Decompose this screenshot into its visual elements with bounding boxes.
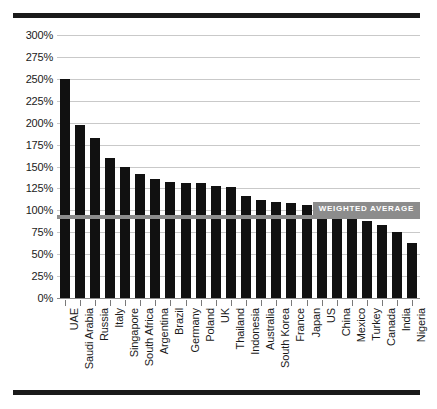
x-axis-tick bbox=[382, 300, 383, 306]
x-axis-tick bbox=[95, 300, 96, 306]
y-axis-tick-label: 250% bbox=[26, 73, 53, 85]
x-axis-tick bbox=[337, 300, 338, 306]
bar bbox=[75, 125, 85, 298]
x-axis-tick bbox=[110, 300, 111, 306]
bar bbox=[332, 217, 342, 298]
bar bbox=[377, 225, 387, 298]
x-axis-tick bbox=[186, 300, 187, 306]
x-axis-category-label: China bbox=[341, 308, 352, 336]
bar bbox=[211, 186, 221, 298]
bar bbox=[317, 206, 327, 298]
x-axis-tick bbox=[125, 300, 126, 306]
y-axis-tick-label: 200% bbox=[26, 117, 53, 129]
weighted-average-line bbox=[57, 215, 420, 219]
top-rule bbox=[13, 13, 420, 18]
bar bbox=[241, 196, 251, 298]
x-axis-tick bbox=[170, 300, 171, 306]
y-axis-tick-label: 175% bbox=[26, 139, 53, 151]
bar-series bbox=[57, 35, 420, 298]
bar bbox=[407, 243, 417, 298]
x-axis-tick bbox=[412, 300, 413, 306]
x-axis-tick bbox=[261, 300, 262, 306]
y-axis-tick-label: 275% bbox=[26, 51, 53, 63]
y-axis-tick-label: 150% bbox=[26, 161, 53, 173]
bar bbox=[150, 179, 160, 298]
bar bbox=[60, 79, 70, 298]
x-axis-tick bbox=[80, 300, 81, 306]
x-axis-category-label: US bbox=[326, 308, 337, 323]
x-axis-tick bbox=[65, 300, 66, 306]
y-axis-tick-label: 75% bbox=[32, 226, 53, 238]
x-axis-tick bbox=[140, 300, 141, 306]
bar bbox=[120, 167, 130, 298]
x-axis-tick bbox=[367, 300, 368, 306]
y-axis-tick-label: 25% bbox=[32, 270, 53, 282]
x-axis-tick bbox=[276, 300, 277, 306]
weighted-average-label: WEIGHTED AVERAGE bbox=[313, 202, 420, 215]
x-axis-category-label: Italy bbox=[114, 308, 125, 328]
x-axis-category-label: UK bbox=[220, 308, 231, 323]
x-axis-category-label: South Korea bbox=[280, 308, 291, 368]
x-axis-tick bbox=[231, 300, 232, 306]
x-axis-category-label: France bbox=[295, 308, 306, 342]
bar bbox=[135, 174, 145, 298]
y-axis-tick-label: 0% bbox=[38, 292, 54, 304]
x-axis-category-label: Poland bbox=[205, 308, 216, 342]
bar bbox=[347, 219, 357, 298]
x-axis-tick bbox=[291, 300, 292, 306]
x-axis-category-label: India bbox=[401, 308, 412, 331]
x-axis-category-label: Germany bbox=[190, 308, 201, 353]
bar bbox=[362, 221, 372, 298]
bar bbox=[105, 158, 115, 298]
x-axis-category-label: Saudi Arabia bbox=[84, 308, 95, 369]
x-axis-tick bbox=[201, 300, 202, 306]
bar bbox=[181, 183, 191, 298]
y-axis-tick-label: 100% bbox=[26, 204, 53, 216]
x-axis-tick bbox=[322, 300, 323, 306]
bar bbox=[196, 183, 206, 298]
x-axis-category-label: Singapore bbox=[129, 308, 140, 357]
x-axis-category-label: Japan bbox=[311, 308, 322, 337]
y-axis-tick-label: 125% bbox=[26, 182, 53, 194]
bottom-rule bbox=[13, 390, 420, 395]
x-axis-category-label: UAE bbox=[69, 308, 80, 330]
axis-baseline: 0% bbox=[57, 298, 420, 299]
bar bbox=[165, 182, 175, 298]
x-axis-category-label: Argentina bbox=[159, 308, 170, 354]
x-axis-category-label: Nigeria bbox=[416, 308, 427, 342]
x-axis-tick bbox=[246, 300, 247, 306]
bar bbox=[392, 232, 402, 298]
x-axis-category-label: Turkey bbox=[371, 308, 382, 341]
x-axis-category-label: Russia bbox=[99, 308, 110, 341]
x-axis-labels: UAESaudi ArabiaRussiaItalySingaporeSouth… bbox=[57, 308, 420, 388]
x-axis-category-label: South Africa bbox=[144, 308, 155, 366]
bar bbox=[226, 187, 236, 298]
x-axis-tick bbox=[397, 300, 398, 306]
x-axis-category-label: Canada bbox=[386, 308, 397, 346]
y-axis-tick-label: 300% bbox=[26, 29, 53, 41]
x-axis-tick bbox=[352, 300, 353, 306]
x-axis-tick bbox=[216, 300, 217, 306]
x-axis-category-label: Mexico bbox=[356, 308, 367, 342]
x-axis-tick bbox=[155, 300, 156, 306]
x-axis-category-label: Brazil bbox=[174, 308, 185, 335]
x-axis-category-label: Thailand bbox=[235, 308, 246, 349]
plot-area: 300%275%250%225%200%175%150%125%100%75%5… bbox=[57, 35, 420, 298]
x-axis-tick bbox=[307, 300, 308, 306]
x-axis-category-label: Australia bbox=[265, 308, 276, 350]
chart-figure: 300%275%250%225%200%175%150%125%100%75%5… bbox=[0, 0, 437, 409]
x-axis-category-label: Indonesia bbox=[250, 308, 261, 355]
y-axis-tick-label: 50% bbox=[32, 248, 53, 260]
y-axis-tick-label: 225% bbox=[26, 95, 53, 107]
